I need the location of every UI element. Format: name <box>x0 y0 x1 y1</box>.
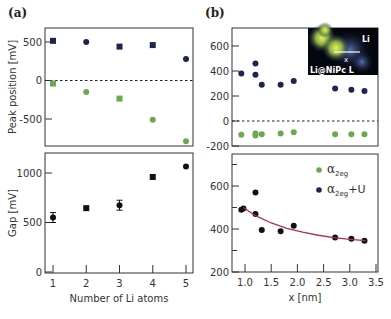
y-axis-title: Gap [mV] <box>7 189 18 237</box>
legend-label: α2eg+U <box>327 182 366 198</box>
data-point <box>278 228 284 234</box>
x-tick-label: 3.0 <box>342 277 358 288</box>
x-axis-title: Number of Li atoms <box>70 293 169 304</box>
data-point <box>252 132 258 138</box>
data-point <box>50 215 56 221</box>
y-tick-label: 200 <box>210 91 229 102</box>
data-point <box>183 56 189 62</box>
data-point <box>259 131 265 137</box>
data-point <box>117 202 123 208</box>
data-point <box>83 39 89 45</box>
legend-marker <box>316 187 322 193</box>
data-point <box>332 131 338 137</box>
data-point <box>291 78 297 84</box>
data-point <box>361 131 367 137</box>
data-point <box>348 87 354 93</box>
chart-a-top: 5000-500Peak position [mV] <box>7 28 193 146</box>
data-point <box>278 131 284 137</box>
data-point <box>259 227 265 233</box>
data-point-square <box>50 81 56 87</box>
plot-frame <box>45 153 193 273</box>
data-point-square <box>117 96 123 102</box>
chart-a-bottom: 1000500012345Gap [mV]Number of Li atoms <box>7 153 193 304</box>
y-tick-label: 600 <box>210 181 229 192</box>
x-tick-label: 2.5 <box>316 277 332 288</box>
panel-label-a: (a) <box>8 6 27 20</box>
data-point <box>361 88 367 94</box>
inset-x-label: x <box>344 56 348 64</box>
legend-marker <box>316 167 322 173</box>
data-point <box>183 164 189 170</box>
data-point-square <box>117 44 123 50</box>
y-tick-label: 0 <box>36 75 42 86</box>
legend-label: α2eg <box>327 162 348 178</box>
data-point-square <box>150 42 156 48</box>
molecule-lobe-bright <box>317 22 333 38</box>
y-tick-label: -200 <box>206 141 229 152</box>
data-point-square <box>50 38 56 44</box>
data-point-square <box>83 205 89 211</box>
chart-b-bottom: 6004002001.01.52.02.53.03.5x [nm] <box>210 154 384 303</box>
data-point <box>252 61 258 67</box>
y-tick-label: 400 <box>210 224 229 235</box>
data-point-square <box>150 174 156 180</box>
y-tick-label: 500 <box>23 217 42 228</box>
x-tick-label: 5 <box>183 278 189 289</box>
data-point <box>291 129 297 135</box>
y-axis-title: Peak position [mV] <box>7 40 18 134</box>
data-point <box>252 72 258 78</box>
y-tick-label: 0 <box>36 267 42 278</box>
y-tick-label: 200 <box>210 267 229 278</box>
panel-label-b: (b) <box>205 6 225 20</box>
inset-li-label: Li <box>362 35 370 44</box>
x-tick-label: 1.5 <box>263 277 279 288</box>
y-tick-label: -500 <box>19 114 42 125</box>
x-tick-label: 2.0 <box>289 277 305 288</box>
data-point <box>278 82 284 88</box>
data-point <box>332 86 338 92</box>
data-point <box>238 71 244 77</box>
fit-curve <box>243 208 365 241</box>
data-point <box>183 138 189 144</box>
inset-main-label: Li@NiPc L <box>310 66 354 75</box>
y-tick-label: 0 <box>223 116 229 127</box>
figure-canvas: 5000-500Peak position [mV]1000500012345G… <box>0 0 391 319</box>
x-axis-title: x [nm] <box>289 292 322 303</box>
x-tick-label: 4 <box>150 278 156 289</box>
y-tick-label: 400 <box>210 66 229 77</box>
data-point <box>238 132 244 138</box>
legend: α2egα2eg+U <box>316 162 365 198</box>
data-point <box>252 189 258 195</box>
data-point <box>348 131 354 137</box>
data-point <box>150 117 156 123</box>
x-tick-label: 3.5 <box>368 277 384 288</box>
inset-stm-image: xLiLi@NiPc L <box>308 22 378 75</box>
y-tick-label: 1000 <box>17 168 42 179</box>
y-tick-label: 500 <box>23 37 42 48</box>
data-point <box>291 223 297 229</box>
x-tick-label: 2 <box>83 278 89 289</box>
data-point <box>83 89 89 95</box>
x-tick-label: 1.0 <box>237 277 253 288</box>
x-tick-label: 1 <box>50 278 56 289</box>
y-tick-label: 600 <box>210 41 229 52</box>
data-point <box>259 82 265 88</box>
x-tick-label: 3 <box>116 278 122 289</box>
